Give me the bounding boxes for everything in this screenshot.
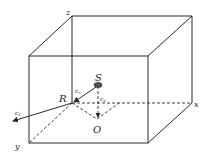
x-label: x (194, 100, 199, 109)
box-diagram: z x y S R O cr co c1 (0, 0, 203, 157)
dashed-lines (29, 86, 192, 143)
r-to-o-dashed (72, 103, 97, 119)
o-to-x-dashed (97, 103, 119, 119)
front-face (29, 56, 148, 143)
reflected-ray (13, 103, 72, 121)
bottom-right-depth-edge (148, 103, 192, 143)
top-right-depth-edge (148, 16, 192, 56)
s-label: S (95, 72, 102, 83)
y-axis-dashed (29, 103, 72, 143)
z-label: z (65, 8, 71, 17)
cr-label: cr (75, 87, 81, 95)
c1-label: c1 (15, 109, 21, 117)
o-label: O (93, 124, 101, 135)
r-label: R (58, 93, 67, 104)
co-label: co (100, 95, 106, 103)
box-edges (29, 16, 192, 143)
y-label: y (14, 142, 20, 151)
source-ellipse (94, 83, 102, 88)
top-left-depth-edge (29, 16, 72, 56)
